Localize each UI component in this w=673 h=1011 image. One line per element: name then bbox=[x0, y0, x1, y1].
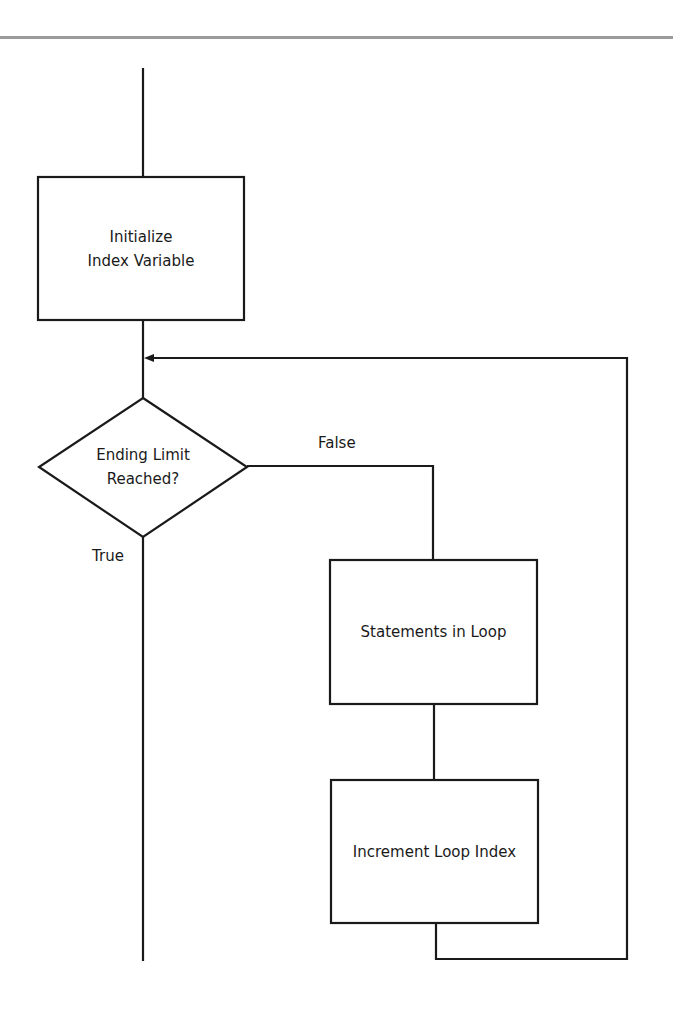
false-path-connector bbox=[247, 466, 433, 560]
true-edge-label: True bbox=[92, 545, 124, 567]
decision-diamond: Ending Limit Reached? bbox=[39, 430, 247, 504]
init-box-label-line1: Initialize bbox=[88, 225, 195, 249]
decision-label-line1: Ending Limit bbox=[96, 443, 190, 467]
false-edge-label: False bbox=[318, 432, 356, 454]
loop-back-arrowhead-icon bbox=[144, 354, 154, 362]
increment-box: Increment Loop Index bbox=[331, 780, 538, 923]
init-box-label-line2: Index Variable bbox=[88, 249, 195, 273]
init-box: Initialize Index Variable bbox=[38, 177, 244, 320]
increment-box-label: Increment Loop Index bbox=[353, 840, 516, 864]
statements-box: Statements in Loop bbox=[330, 560, 537, 704]
decision-label-line2: Reached? bbox=[96, 467, 190, 491]
statements-box-label: Statements in Loop bbox=[361, 620, 507, 644]
